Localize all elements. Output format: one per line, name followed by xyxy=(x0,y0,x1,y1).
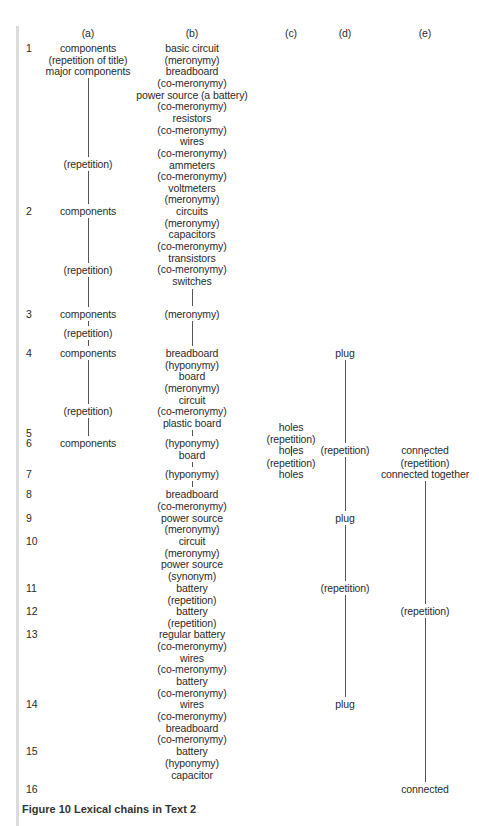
row-number: 1 xyxy=(26,42,32,54)
chain-item: power source xyxy=(161,558,223,570)
chain-item: capacitors xyxy=(169,228,216,240)
column-header: (e) xyxy=(419,27,432,39)
chain-item: (repetition) xyxy=(321,582,370,594)
chain-item: battery xyxy=(176,675,207,687)
chain-item: (co-meronymy) xyxy=(157,405,226,417)
chain-connector-line xyxy=(88,78,89,157)
chain-item: connected together xyxy=(381,468,469,480)
chain-item: battery xyxy=(176,745,207,757)
chain-item: holes xyxy=(279,421,304,433)
chain-item: (repetition) xyxy=(64,158,113,170)
chain-connector-line xyxy=(192,462,193,467)
chain-item: components xyxy=(60,205,116,217)
row-number: 14 xyxy=(26,698,38,710)
chain-item: components xyxy=(60,437,116,449)
chain-connector-line xyxy=(192,321,193,346)
chain-item: breadboard xyxy=(166,347,219,359)
chain-item: connected xyxy=(401,444,449,456)
chain-item: battery xyxy=(176,605,207,617)
chain-connector-line xyxy=(425,618,426,782)
chain-item: holes xyxy=(279,444,304,456)
chain-item: circuits xyxy=(176,205,208,217)
chain-connector-line xyxy=(88,340,89,346)
chain-item: battery xyxy=(176,582,207,594)
row-number: 8 xyxy=(26,488,32,500)
chain-item: plug xyxy=(335,698,354,710)
chain-item: (co-meronymy) xyxy=(157,263,226,275)
chain-item: major components xyxy=(46,65,131,77)
chain-item: breadboard xyxy=(166,65,219,77)
row-number: 7 xyxy=(26,468,32,480)
chain-item: (repetition) xyxy=(321,444,370,456)
chain-item: breadboard xyxy=(166,488,219,500)
chain-item: (co-meronymy) xyxy=(157,733,226,745)
chain-item: (repetition) xyxy=(64,405,113,417)
chain-item: (meronymy) xyxy=(164,308,219,320)
row-number: 15 xyxy=(26,745,38,757)
chain-connector-line xyxy=(88,321,89,326)
chain-item: (co-meronymy) xyxy=(157,710,226,722)
chain-item: (hyponymy) xyxy=(165,468,219,480)
chain-item: (co-meronymy) xyxy=(157,100,226,112)
chain-item: plug xyxy=(335,347,354,359)
chain-item: (co-meronymy) xyxy=(157,170,226,182)
chain-item: basic circuit xyxy=(165,42,219,54)
chain-item: (hyponymy) xyxy=(165,757,219,769)
chain-item: board xyxy=(179,370,205,382)
row-number: 6 xyxy=(26,437,32,449)
column-header: (d) xyxy=(339,27,352,39)
chain-item: (co-meronymy) xyxy=(157,500,226,512)
row-number: 2 xyxy=(26,205,32,217)
chain-item: (co-meronymy) xyxy=(157,147,226,159)
chain-item: plastic board xyxy=(163,417,221,429)
chain-connector-line xyxy=(345,457,346,511)
chain-item: (repetition) xyxy=(64,264,113,276)
chain-item: board xyxy=(179,449,205,461)
chain-item: resistors xyxy=(173,112,212,124)
chain-connector-line xyxy=(192,289,193,306)
chain-connector-line xyxy=(88,218,89,263)
chain-item: regular battery xyxy=(159,628,225,640)
chain-item: switches xyxy=(172,275,211,287)
chain-item: plug xyxy=(335,512,354,524)
chain-item: components xyxy=(60,308,116,320)
row-number: 4 xyxy=(26,347,32,359)
chain-item: (co-meronymy) xyxy=(157,240,226,252)
chain-item: (meronymy) xyxy=(164,382,219,394)
chain-connector-line xyxy=(192,481,193,487)
chain-connector-line xyxy=(345,595,346,697)
row-number: 13 xyxy=(26,628,38,640)
row-number: 10 xyxy=(26,535,38,547)
chain-connector-line xyxy=(88,418,89,436)
chain-item: (meronymy) xyxy=(164,523,219,535)
chain-item: wires xyxy=(180,698,204,710)
chain-item: (co-meronymy) xyxy=(157,640,226,652)
figure-caption: Figure 10 Lexical chains in Text 2 xyxy=(22,803,196,815)
chain-item: components xyxy=(60,42,116,54)
chain-connector-line xyxy=(192,430,193,436)
chain-item: (repetition) xyxy=(401,605,450,617)
chain-item: (synonym) xyxy=(168,570,216,582)
chain-item: capacitor xyxy=(171,769,213,781)
chain-item: (co-meronymy) xyxy=(157,663,226,675)
chain-item: (co-meronymy) xyxy=(157,77,226,89)
chain-item: (repetition) xyxy=(64,327,113,339)
chain-connector-line xyxy=(88,277,89,307)
chain-connector-line xyxy=(345,360,346,443)
column-header: (c) xyxy=(285,27,297,39)
row-number: 3 xyxy=(26,308,32,320)
row-number: 9 xyxy=(26,512,32,524)
chain-connector-line xyxy=(88,360,89,404)
chain-item: circuit xyxy=(179,535,206,547)
row-number: 12 xyxy=(26,605,38,617)
chain-item: connected xyxy=(401,783,449,795)
chain-item: holes xyxy=(279,468,304,480)
chain-item: (hyponymy) xyxy=(165,437,219,449)
column-header: (b) xyxy=(186,27,199,39)
chain-connector-line xyxy=(345,525,346,581)
chain-item: wires xyxy=(180,135,204,147)
chain-item: components xyxy=(60,347,116,359)
row-number: 16 xyxy=(26,783,38,795)
chain-item: (meronymy) xyxy=(164,193,219,205)
